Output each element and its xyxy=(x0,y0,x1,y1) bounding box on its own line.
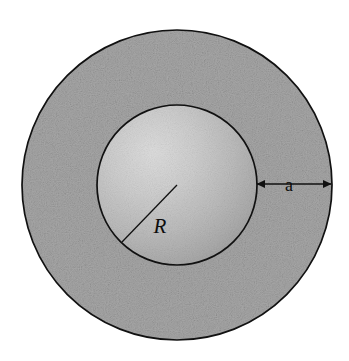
concentric-sphere-shell-diagram: R a xyxy=(0,0,349,361)
shell-thickness-label: a xyxy=(285,175,293,195)
inner-radius-label: R xyxy=(153,214,167,238)
figure-stage: R a xyxy=(0,0,349,361)
